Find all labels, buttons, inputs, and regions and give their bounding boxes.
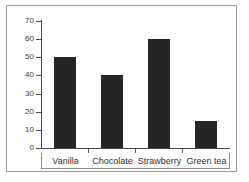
y-axis-tick-label-wrap: 40	[7, 71, 34, 79]
y-axis-tick-label-wrap: 10	[7, 126, 34, 134]
chart-page-frame: 010203040506070 VanillaChocolateStrawber…	[6, 5, 237, 172]
y-axis-tick-label: 0	[10, 144, 34, 152]
y-axis-tick-label-wrap: 30	[7, 90, 34, 98]
y-axis-tick-label: 10	[10, 126, 34, 134]
y-axis-tick-label: 70	[10, 17, 34, 25]
y-axis-tick-mark	[36, 148, 41, 149]
y-axis-tick-label-wrap: 70	[7, 17, 34, 25]
y-axis-tick-label-wrap: 20	[7, 108, 34, 116]
y-axis-tick-mark	[36, 94, 41, 95]
category-label: Chocolate	[89, 155, 136, 167]
y-axis-tick-label: 40	[10, 71, 34, 79]
category-label: Strawberry	[136, 155, 183, 167]
bar	[195, 121, 217, 148]
y-axis-tick-label: 60	[10, 35, 34, 43]
y-axis-tick-mark	[36, 39, 41, 40]
bar	[54, 57, 76, 148]
y-axis-tick-label: 20	[10, 108, 34, 116]
bar	[148, 39, 170, 148]
bar	[101, 75, 123, 148]
y-axis-tick-label-wrap: 0	[7, 144, 34, 152]
y-axis-tick-mark	[36, 57, 41, 58]
y-axis-tick-mark	[36, 112, 41, 113]
y-axis-tick-mark	[36, 75, 41, 76]
y-axis-tick-label: 30	[10, 90, 34, 98]
y-axis-tick-mark	[36, 130, 41, 131]
y-axis-tick-mark	[36, 21, 41, 22]
bar-chart-figure: 010203040506070 VanillaChocolateStrawber…	[7, 6, 238, 173]
category-label: Green tea	[183, 155, 230, 167]
y-axis-tick-label-wrap: 60	[7, 35, 34, 43]
y-axis-line	[41, 20, 42, 149]
y-axis-tick-label-wrap: 50	[7, 53, 34, 61]
y-axis-tick-label: 50	[10, 53, 34, 61]
category-label-strip: VanillaChocolateStrawberryGreen tea	[41, 153, 230, 169]
category-label: Vanilla	[42, 155, 89, 167]
